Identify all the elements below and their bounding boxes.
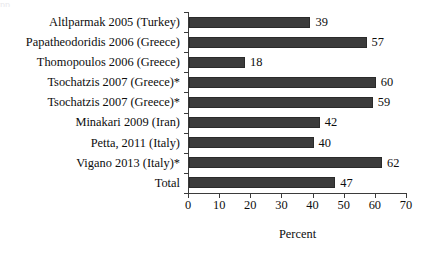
x-axis-tick-label: 40 — [306, 199, 318, 211]
bar-value-label: 39 — [315, 16, 327, 28]
bar-row: 18 — [189, 52, 407, 72]
bar-value-label: 57 — [372, 36, 384, 48]
bar — [189, 157, 382, 168]
category-label: Tsochatzis 2007 (Greece)* — [0, 92, 185, 112]
bar — [189, 117, 320, 128]
y-axis-tick — [184, 133, 188, 134]
x-axis-tick-label: 50 — [338, 199, 350, 211]
bar — [189, 177, 335, 188]
category-label: Petta, 2011 (Italy) — [0, 133, 185, 153]
y-axis-line — [188, 12, 189, 193]
x-axis-tick-label: 60 — [369, 199, 381, 211]
bar-value-label: 40 — [319, 137, 331, 149]
category-label: Minakari 2009 (Iran) — [0, 113, 185, 133]
bar — [189, 97, 373, 108]
x-axis-tick-label: 30 — [275, 199, 287, 211]
bar-row: 60 — [189, 72, 407, 92]
bar-value-label: 42 — [325, 116, 337, 128]
bars-region: 39 57 18 60 59 42 — [189, 12, 407, 193]
bar-value-label: 59 — [378, 96, 390, 108]
bar-row: 62 — [189, 153, 407, 173]
bar-value-label: 47 — [340, 177, 352, 189]
x-axis-title: Percent — [188, 228, 407, 240]
x-axis-tick-label: 70 — [400, 199, 412, 211]
category-label: Vigano 2013 (Italy)* — [0, 153, 185, 173]
bar-row: 59 — [189, 92, 407, 112]
category-axis-labels: Altlparmak 2005 (Turkey) Papatheodoridis… — [0, 12, 185, 193]
bar-chart: pp Altlparmak 2005 (Turkey) Papatheodori… — [0, 0, 440, 253]
bar-row: 57 — [189, 32, 407, 52]
y-axis-tick — [184, 153, 188, 154]
bar — [189, 37, 367, 48]
y-axis-tick — [184, 173, 188, 174]
bar-row: 47 — [189, 173, 407, 193]
category-label: Altlparmak 2005 (Turkey) — [0, 12, 185, 32]
bar-value-label: 62 — [387, 157, 399, 169]
bar — [189, 77, 376, 88]
bar — [189, 17, 310, 28]
bar — [189, 57, 245, 68]
bar-row: 40 — [189, 133, 407, 153]
x-axis-tick-label: 10 — [213, 199, 225, 211]
y-axis-tick — [184, 32, 188, 33]
bar-row: 42 — [189, 113, 407, 133]
bar-value-label: 60 — [381, 76, 393, 88]
y-axis-tick — [184, 113, 188, 114]
category-label: Total — [0, 173, 185, 193]
y-axis-tick — [184, 92, 188, 93]
y-axis-tick — [184, 52, 188, 53]
plot-area: Altlparmak 2005 (Turkey) Papatheodoridis… — [0, 0, 440, 253]
category-label: Tsochatzis 2007 (Greece)* — [0, 72, 185, 92]
y-axis-tick — [184, 12, 188, 13]
bar — [189, 137, 314, 148]
y-axis-tick — [184, 72, 188, 73]
category-label: Thomopoulos 2006 (Greece) — [0, 52, 185, 72]
x-axis-tick-label: 0 — [185, 199, 191, 211]
bar-value-label: 18 — [250, 56, 262, 68]
x-axis-tick-label: 20 — [244, 199, 256, 211]
category-label: Papatheodoridis 2006 (Greece) — [0, 32, 185, 52]
bar-row: 39 — [189, 12, 407, 32]
